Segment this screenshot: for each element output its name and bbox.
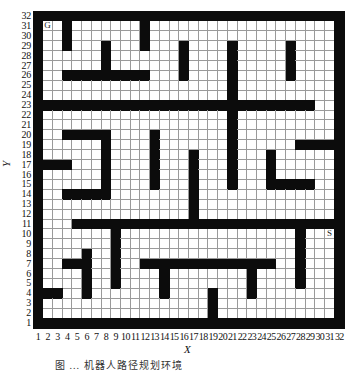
- free-cell: [140, 80, 150, 90]
- free-cell: [295, 209, 305, 219]
- wall-cell: [140, 100, 150, 110]
- x-tick-label: 12: [140, 332, 150, 342]
- free-cell: [227, 199, 237, 209]
- wall-cell: [150, 100, 160, 110]
- free-cell: [315, 90, 325, 100]
- free-cell: [150, 209, 160, 219]
- free-cell: [257, 179, 267, 189]
- wall-cell: [62, 11, 72, 21]
- free-cell: [257, 41, 267, 51]
- wall-cell: [111, 318, 121, 328]
- free-cell: [325, 278, 335, 288]
- wall-cell: [315, 11, 325, 21]
- free-cell: [325, 189, 335, 199]
- start-marker: S: [325, 229, 335, 239]
- free-cell: [266, 288, 276, 298]
- wall-cell: [62, 70, 72, 80]
- free-cell: [286, 249, 296, 259]
- wall-cell: [140, 318, 150, 328]
- wall-cell: [227, 130, 237, 140]
- free-cell: [101, 199, 111, 209]
- free-cell: [237, 239, 247, 249]
- free-cell: [208, 41, 218, 51]
- free-cell: [266, 269, 276, 279]
- free-cell: [140, 308, 150, 318]
- wall-cell: [159, 11, 169, 21]
- free-cell: [52, 278, 62, 288]
- free-cell: [286, 140, 296, 150]
- free-cell: [179, 298, 189, 308]
- free-cell: [237, 298, 247, 308]
- wall-cell: [179, 100, 189, 110]
- x-tick-label: 10: [120, 332, 130, 342]
- free-cell: [130, 90, 140, 100]
- free-cell: [286, 90, 296, 100]
- wall-cell: [72, 219, 82, 229]
- free-cell: [120, 209, 130, 219]
- free-cell: [198, 189, 208, 199]
- free-cell: [257, 51, 267, 61]
- free-cell: [257, 21, 267, 31]
- free-cell: [266, 31, 276, 41]
- free-cell: [72, 239, 82, 249]
- free-cell: [218, 229, 228, 239]
- free-cell: [198, 120, 208, 130]
- free-cell: [82, 110, 92, 120]
- wall-cell: [33, 51, 43, 61]
- wall-cell: [276, 11, 286, 21]
- wall-cell: [227, 318, 237, 328]
- free-cell: [91, 229, 101, 239]
- free-cell: [305, 229, 315, 239]
- free-cell: [315, 61, 325, 71]
- free-cell: [257, 278, 267, 288]
- wall-cell: [140, 21, 150, 31]
- free-cell: [82, 209, 92, 219]
- free-cell: [286, 130, 296, 140]
- wall-cell: [334, 288, 344, 298]
- free-cell: [43, 269, 53, 279]
- wall-cell: [33, 110, 43, 120]
- free-cell: [111, 288, 121, 298]
- free-cell: [257, 130, 267, 140]
- free-cell: [286, 31, 296, 41]
- free-cell: [43, 239, 53, 249]
- wall-cell: [218, 219, 228, 229]
- free-cell: [276, 120, 286, 130]
- free-cell: [150, 278, 160, 288]
- free-cell: [91, 179, 101, 189]
- wall-cell: [150, 160, 160, 170]
- free-cell: [218, 269, 228, 279]
- wall-cell: [189, 100, 199, 110]
- free-cell: [82, 80, 92, 90]
- wall-cell: [227, 150, 237, 160]
- free-cell: [159, 41, 169, 51]
- free-cell: [266, 249, 276, 259]
- wall-cell: [295, 219, 305, 229]
- free-cell: [325, 259, 335, 269]
- y-tick-label: 27: [7, 61, 31, 71]
- wall-cell: [159, 318, 169, 328]
- free-cell: [159, 179, 169, 189]
- wall-cell: [218, 100, 228, 110]
- free-cell: [159, 199, 169, 209]
- free-cell: [315, 288, 325, 298]
- wall-cell: [150, 219, 160, 229]
- wall-cell: [247, 288, 257, 298]
- free-cell: [276, 21, 286, 31]
- free-cell: [150, 120, 160, 130]
- free-cell: [257, 110, 267, 120]
- free-cell: [189, 140, 199, 150]
- free-cell: [218, 288, 228, 298]
- wall-cell: [227, 100, 237, 110]
- wall-cell: [101, 140, 111, 150]
- free-cell: [218, 21, 228, 31]
- wall-cell: [82, 219, 92, 229]
- wall-cell: [334, 140, 344, 150]
- wall-cell: [82, 259, 92, 269]
- free-cell: [198, 80, 208, 90]
- x-tick-label: 6: [82, 332, 92, 342]
- free-cell: [247, 179, 257, 189]
- free-cell: [237, 160, 247, 170]
- free-cell: [266, 51, 276, 61]
- free-cell: [325, 31, 335, 41]
